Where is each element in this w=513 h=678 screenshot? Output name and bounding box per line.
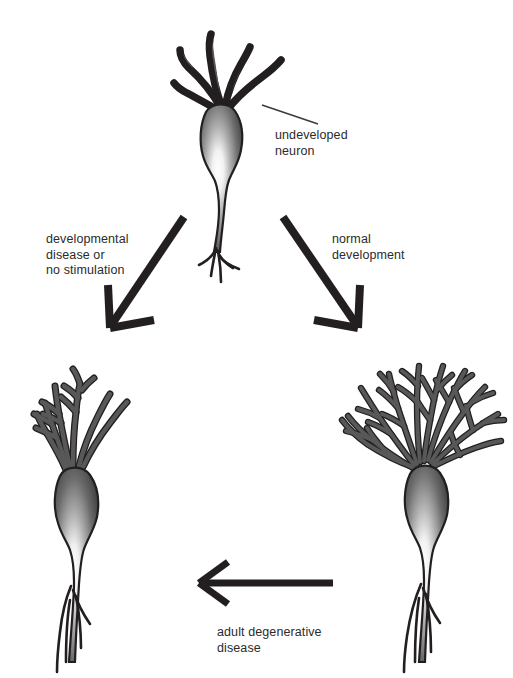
- neuron-cycle-illustration: [0, 0, 513, 678]
- atrophied-neuron-dendrites-fill: [34, 369, 127, 470]
- undeveloped-neuron-figure: [174, 34, 281, 282]
- label-developmental-disease: developmental disease or no stimulation: [46, 232, 129, 279]
- arrow-to-degenerate: [199, 562, 333, 604]
- diagram-canvas: undeveloped neuron developmental disease…: [0, 0, 513, 678]
- mature-neuron-soma: [405, 466, 448, 662]
- label-normal-development: normal development: [332, 232, 405, 263]
- leader-line-undeveloped-neuron: [262, 105, 318, 124]
- arrow-to-mature-head-right: [358, 285, 360, 328]
- undeveloped-neuron-axon-terminals: [199, 248, 239, 282]
- arrow-to-atrophied-head-left: [108, 285, 110, 328]
- mature-neuron-figure: [342, 366, 504, 672]
- atrophied-neuron-soma: [55, 468, 98, 662]
- undeveloped-neuron-soma: [201, 104, 243, 252]
- label-adult-degenerative: adult degenerative disease: [217, 625, 322, 656]
- atrophied-neuron-figure: [34, 369, 127, 672]
- label-undeveloped-neuron: undeveloped neuron: [275, 128, 348, 159]
